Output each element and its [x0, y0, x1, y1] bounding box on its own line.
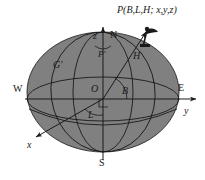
height-label: H	[133, 51, 140, 61]
axis-y-label: y	[184, 106, 188, 116]
greenwich-meridian-label: G'	[53, 60, 62, 70]
diagram-canvas	[0, 0, 205, 180]
subpoint-label: P'	[98, 50, 105, 59]
direction-west-label: W	[13, 84, 22, 94]
point-P-label: P(B,L,H; x,y,z)	[117, 5, 177, 15]
latitude-angle-label: B	[122, 86, 128, 96]
axis-z-label: z	[93, 31, 97, 41]
axis-x-label: x	[27, 140, 31, 150]
origin-label: O	[91, 84, 98, 94]
longitude-angle-label: L	[88, 110, 94, 120]
direction-east-label: E	[178, 83, 184, 93]
direction-south-label: S	[99, 158, 105, 168]
direction-north-label: N	[110, 30, 117, 40]
geodetic-coordinate-diagram: P(B,L,H; x,y,z) N S W E z y x O G' P' H …	[0, 0, 205, 180]
